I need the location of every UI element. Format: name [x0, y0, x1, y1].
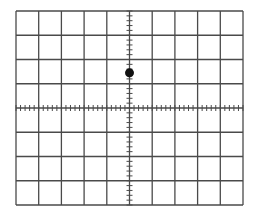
oscilloscope-graticule [0, 0, 258, 217]
signal-dot-marker [125, 68, 134, 77]
